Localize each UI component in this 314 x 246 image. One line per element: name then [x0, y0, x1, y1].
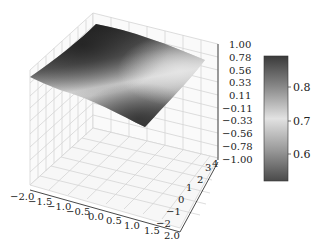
svg-text:0.33: 0.33	[229, 77, 251, 88]
svg-text:−1: −1	[166, 206, 181, 217]
svg-text:1.00: 1.00	[229, 39, 251, 50]
z-tick-labels: 1.00 0.78 0.56 0.33 0.11 −0.11 −0.33 −0.…	[222, 39, 253, 165]
svg-text:0.5: 0.5	[106, 215, 122, 226]
svg-text:−1.00: −1.00	[222, 154, 253, 165]
svg-text:−0.11: −0.11	[222, 103, 253, 114]
svg-text:2: 2	[197, 174, 203, 185]
svg-text:1: 1	[186, 182, 192, 193]
svg-text:4: 4	[212, 158, 218, 169]
svg-text:−0.56: −0.56	[222, 128, 253, 139]
svg-text:0: 0	[178, 194, 184, 205]
svg-text:−0.5: −0.5	[66, 206, 90, 217]
svg-text:0.11: 0.11	[229, 90, 251, 101]
colorbar: 0.8 0.7 0.6	[264, 56, 311, 181]
svg-text:0.56: 0.56	[229, 65, 251, 76]
svg-text:−0.33: −0.33	[222, 115, 253, 126]
svg-text:1.0: 1.0	[124, 220, 140, 231]
svg-text:−0.78: −0.78	[222, 141, 253, 152]
svg-text:−2: −2	[156, 218, 171, 229]
surface-plot-figure: 1.00 0.78 0.56 0.33 0.11 −0.11 −0.33 −0.…	[0, 0, 314, 246]
colorbar-tick: 0.6	[293, 148, 311, 161]
colorbar-tick: 0.8	[293, 81, 311, 94]
colorbar-gradient	[264, 56, 288, 181]
colorbar-tick: 0.7	[293, 115, 311, 128]
svg-text:2.0: 2.0	[164, 230, 180, 241]
svg-text:0.0: 0.0	[88, 211, 104, 222]
svg-text:0.78: 0.78	[229, 52, 251, 63]
svg-text:3: 3	[205, 162, 211, 173]
